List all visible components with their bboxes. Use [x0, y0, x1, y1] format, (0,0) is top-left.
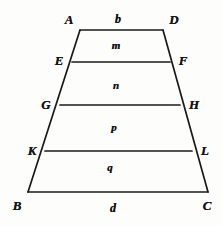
vertex-label-H: H [189, 98, 199, 111]
vertex-label-K: K [28, 144, 37, 157]
region-label-n: n [113, 80, 119, 91]
side-label-b: b [115, 13, 121, 25]
region-label-m: m [112, 40, 121, 51]
vertex-label-L: L [201, 144, 209, 157]
vertex-label-A: A [65, 13, 74, 26]
region-label-p: p [111, 122, 117, 133]
vertex-label-E: E [55, 54, 64, 67]
trapezoid-svg [0, 0, 222, 226]
vertex-label-B: B [13, 199, 22, 212]
geometry-figure: A D E F G H K L B C b d m n p q [0, 0, 222, 226]
vertex-label-D: D [169, 13, 178, 26]
side-label-d: d [110, 202, 116, 214]
vertex-label-F: F [179, 54, 188, 67]
vertex-label-C: C [203, 199, 212, 212]
vertex-label-G: G [41, 98, 50, 111]
region-label-q: q [107, 162, 113, 173]
